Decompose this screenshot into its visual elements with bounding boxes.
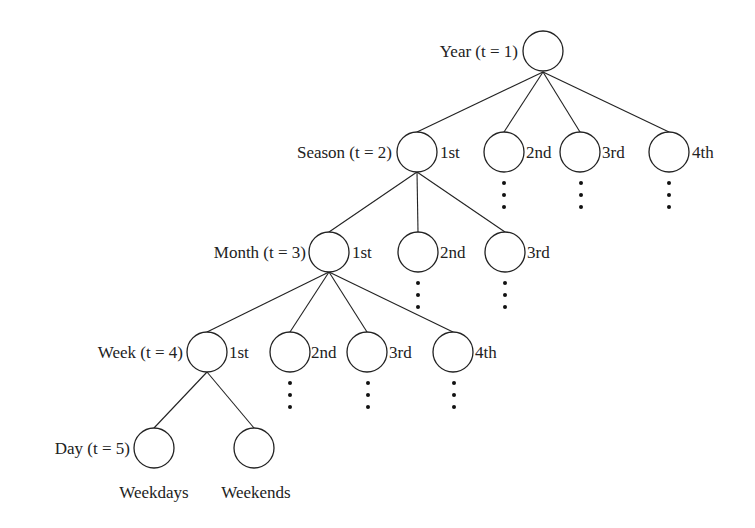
node-week-1 <box>187 332 227 372</box>
edges-season-month <box>329 172 505 232</box>
node-label-week-1: 1st <box>229 343 249 362</box>
ellipsis-season <box>502 181 671 209</box>
ellipsis-month <box>416 281 507 309</box>
level-label-week: Week (t = 4) <box>98 343 183 362</box>
node-day-weekends <box>234 428 274 468</box>
node-label-season-3: 3rd <box>602 143 625 162</box>
node-season-2 <box>484 132 524 172</box>
node-week-2 <box>270 332 310 372</box>
node-label-week-2: 2nd <box>311 343 337 362</box>
node-label-week-4: 4th <box>475 343 497 362</box>
node-month-2 <box>398 232 438 272</box>
node-label-season-1: 1st <box>440 143 460 162</box>
edges-year-season <box>417 72 669 132</box>
node-label-season-4: 4th <box>692 143 714 162</box>
node-label-weekdays: Weekdays <box>119 483 188 502</box>
node-week-3 <box>347 332 387 372</box>
node-label-month-2: 2nd <box>440 243 466 262</box>
tree-diagram: Year (t = 1) Season (t = 2) 1st 2nd 3rd … <box>0 0 755 528</box>
node-season-1 <box>397 132 437 172</box>
node-label-weekends: Weekends <box>221 483 290 502</box>
node-season-4 <box>649 132 689 172</box>
node-label-week-3: 3rd <box>389 343 412 362</box>
edges-week-day <box>154 372 254 428</box>
node-label-month-1: 1st <box>352 243 372 262</box>
node-season-3 <box>560 132 600 172</box>
node-month-1 <box>309 232 349 272</box>
level-label-season: Season (t = 2) <box>297 143 392 162</box>
node-year <box>523 31 563 71</box>
level-label-day: Day (t = 5) <box>55 439 130 458</box>
level-label-year: Year (t = 1) <box>440 42 518 61</box>
node-label-month-3: 3rd <box>527 243 550 262</box>
edges-month-week <box>207 272 453 332</box>
node-week-4 <box>433 332 473 372</box>
node-day-weekdays <box>134 428 174 468</box>
node-month-3 <box>485 232 525 272</box>
ellipsis-week <box>288 381 456 409</box>
level-label-month: Month (t = 3) <box>214 243 306 262</box>
node-label-season-2: 2nd <box>526 143 552 162</box>
